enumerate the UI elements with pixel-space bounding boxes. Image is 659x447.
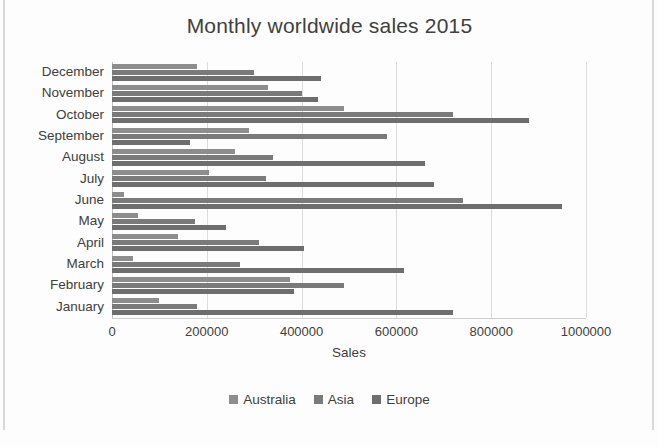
bar-group: February — [112, 275, 586, 296]
gridline — [586, 62, 587, 318]
bar-europe[interactable] — [112, 118, 529, 123]
bar-europe[interactable] — [112, 97, 318, 102]
bar-europe[interactable] — [112, 161, 425, 166]
legend-swatch-icon — [314, 395, 323, 404]
bar-australia[interactable] — [112, 213, 138, 218]
bar-europe[interactable] — [112, 289, 294, 294]
y-axis-label: April — [77, 235, 104, 251]
chart-legend: AustraliaAsiaEurope — [0, 392, 659, 407]
legend-label: Australia — [243, 392, 296, 407]
y-axis-label: December — [42, 64, 104, 80]
y-axis-label: May — [78, 213, 104, 229]
bar-group: August — [112, 147, 586, 168]
bar-europe[interactable] — [112, 268, 404, 273]
bar-australia[interactable] — [112, 85, 268, 90]
chart-title: Monthly worldwide sales 2015 — [0, 14, 659, 38]
x-tick-label: 200000 — [185, 324, 228, 339]
bar-europe[interactable] — [112, 310, 453, 315]
bar-asia[interactable] — [112, 283, 344, 288]
x-axis-line — [112, 318, 586, 319]
y-axis-label: September — [38, 128, 104, 144]
bar-asia[interactable] — [112, 176, 266, 181]
bar-europe[interactable] — [112, 246, 304, 251]
bar-australia[interactable] — [112, 277, 290, 282]
bar-group: March — [112, 254, 586, 275]
x-tick-label: 600000 — [375, 324, 418, 339]
bar-europe[interactable] — [112, 225, 226, 230]
bar-asia[interactable] — [112, 91, 302, 96]
bar-group: October — [112, 105, 586, 126]
bar-asia[interactable] — [112, 198, 463, 203]
x-tick-label: 1000000 — [561, 324, 612, 339]
bar-australia[interactable] — [112, 64, 197, 69]
y-axis-label: July — [80, 171, 104, 187]
bar-group: September — [112, 126, 586, 147]
legend-label: Europe — [386, 392, 430, 407]
bar-australia[interactable] — [112, 149, 235, 154]
figure-right-border — [652, 0, 654, 430]
bar-group: November — [112, 83, 586, 104]
y-axis-label: October — [56, 107, 104, 123]
y-axis-label: June — [75, 192, 104, 208]
bar-asia[interactable] — [112, 240, 259, 245]
bar-australia[interactable] — [112, 170, 209, 175]
bar-australia[interactable] — [112, 298, 159, 303]
bar-europe[interactable] — [112, 204, 562, 209]
y-axis-label: March — [66, 256, 104, 272]
bar-asia[interactable] — [112, 262, 240, 267]
bar-asia[interactable] — [112, 70, 254, 75]
plot-area: DecemberNovemberOctoberSeptemberAugustJu… — [112, 62, 586, 318]
x-tick-label: 400000 — [280, 324, 323, 339]
bar-group: April — [112, 233, 586, 254]
bar-group: June — [112, 190, 586, 211]
bar-asia[interactable] — [112, 219, 195, 224]
x-tick-label: 0 — [108, 324, 115, 339]
bar-australia[interactable] — [112, 234, 178, 239]
legend-item-europe[interactable]: Europe — [372, 392, 430, 407]
figure-left-border — [3, 0, 5, 430]
legend-item-australia[interactable]: Australia — [229, 392, 296, 407]
y-axis-label: August — [62, 149, 104, 165]
bar-australia[interactable] — [112, 256, 133, 261]
bar-australia[interactable] — [112, 106, 344, 111]
bar-australia[interactable] — [112, 128, 249, 133]
bar-asia[interactable] — [112, 155, 273, 160]
bar-asia[interactable] — [112, 304, 197, 309]
bar-asia[interactable] — [112, 112, 453, 117]
chart-container: Monthly worldwide sales 2015 DecemberNov… — [0, 0, 659, 447]
bar-group: July — [112, 169, 586, 190]
bar-europe[interactable] — [112, 140, 190, 145]
y-axis-label: January — [56, 299, 104, 315]
legend-swatch-icon — [229, 395, 238, 404]
x-tick-label: 800000 — [469, 324, 512, 339]
legend-item-asia[interactable]: Asia — [314, 392, 354, 407]
y-axis-label: February — [50, 277, 104, 293]
bar-group: January — [112, 297, 586, 318]
x-axis-title: Sales — [112, 345, 586, 360]
y-axis-label: November — [42, 85, 104, 101]
legend-label: Asia — [328, 392, 354, 407]
bar-europe[interactable] — [112, 182, 434, 187]
bar-europe[interactable] — [112, 76, 321, 81]
bar-asia[interactable] — [112, 134, 387, 139]
bar-group: May — [112, 211, 586, 232]
bar-australia[interactable] — [112, 192, 124, 197]
legend-swatch-icon — [372, 395, 381, 404]
bar-group: December — [112, 62, 586, 83]
